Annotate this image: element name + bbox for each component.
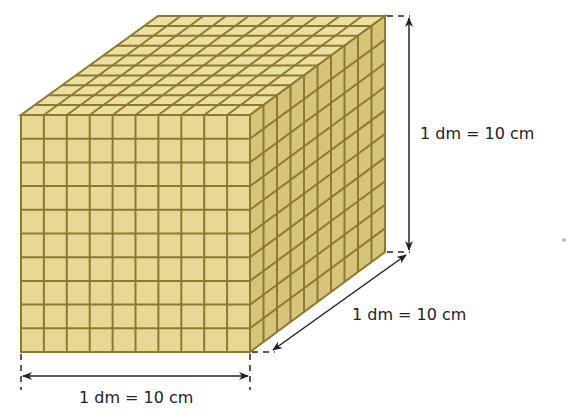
height-dimension	[387, 16, 410, 252]
height-label: 1 dm = 10 cm	[420, 124, 534, 143]
stray-dot	[562, 238, 566, 242]
cube-front-face	[21, 115, 250, 352]
depth-label: 1 dm = 10 cm	[352, 305, 466, 324]
cube-diagram	[0, 0, 572, 419]
width-label: 1 dm = 10 cm	[79, 388, 193, 407]
width-dimension	[21, 354, 250, 390]
